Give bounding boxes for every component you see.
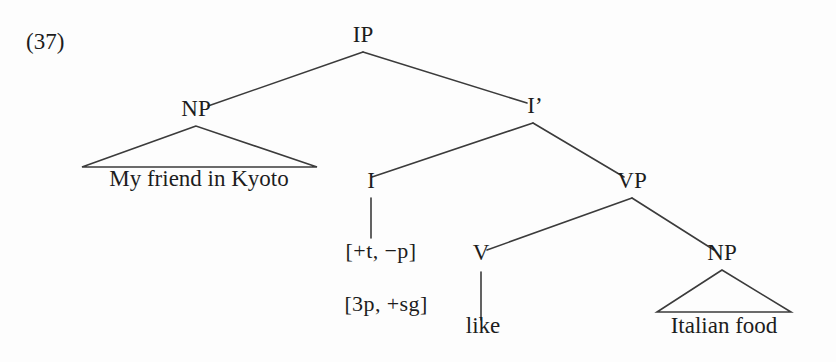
tree-triangle-np_obj: [657, 270, 791, 312]
tree-node-feat2: [3p, +sg]: [344, 293, 427, 315]
tree-edge-vp-to-np_obj: [632, 198, 714, 250]
tree-edge-ip-to-np_subj: [208, 52, 363, 106]
tree-node-np_obj: NP: [707, 241, 736, 264]
example-number: (37): [26, 30, 64, 53]
tree-node-i: I: [367, 169, 375, 192]
tree-node-leaf_v: like: [466, 314, 501, 337]
tree-node-leaf_subj: My friend in Kyoto: [109, 167, 289, 190]
tree-edge-ibar-to-i: [372, 123, 533, 177]
tree-triangles: [82, 126, 791, 312]
tree-edge-ip-to-ibar: [363, 52, 527, 103]
tree-edge-ibar-to-vp: [533, 123, 624, 177]
tree-node-vp: VP: [617, 169, 646, 192]
tree-node-feat1: [+t, −p]: [346, 240, 417, 262]
tree-node-ibar: I’: [527, 94, 542, 117]
tree-node-np_subj: NP: [181, 97, 210, 120]
tree-node-ip: IP: [353, 23, 373, 46]
tree-node-leaf_obj: Italian food: [671, 314, 778, 337]
tree-edge-vp-to-v: [487, 198, 632, 250]
tree-triangle-np_subj: [82, 126, 317, 167]
syntax-tree-figure: IPNPI’IVPVNP[+t, −p][3p, +sg]My friend i…: [0, 0, 836, 362]
tree-node-v: V: [473, 241, 490, 264]
